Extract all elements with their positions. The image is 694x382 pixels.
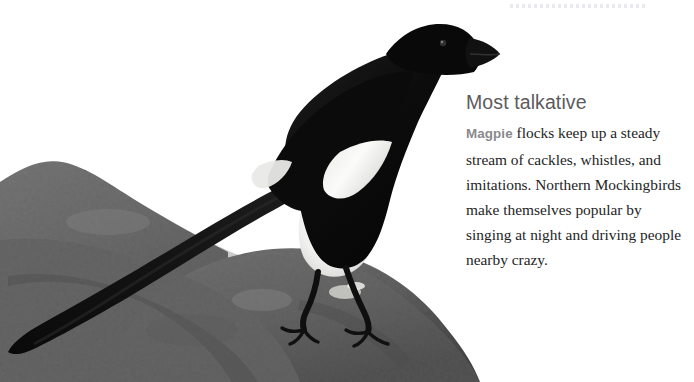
magpie-eye [440, 40, 446, 46]
magpie-fact-page: Most talkative Magpie flocks keep up a s… [0, 0, 694, 382]
panel-heading: Most talkative [466, 92, 688, 113]
panel-body: Magpie flocks keep up a steady stream of… [466, 120, 688, 272]
text-panel: Most talkative Magpie flocks keep up a s… [466, 92, 688, 273]
panel-body-text: flocks keep up a steady stream of cackle… [466, 124, 681, 268]
magpie-photo-artwork [0, 0, 510, 382]
magpie-photograph [0, 0, 510, 382]
species-name: Magpie [466, 126, 513, 141]
